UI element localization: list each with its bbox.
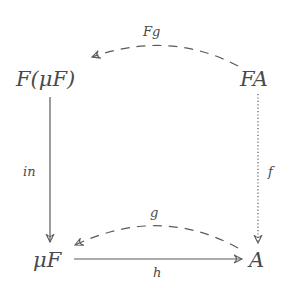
label-fg: Fg: [142, 24, 160, 39]
arrow-fg: [92, 45, 238, 66]
node-mu-f: μF: [33, 248, 63, 272]
node-fa: FA: [239, 67, 268, 91]
label-h: h: [153, 265, 161, 280]
arrow-g: [75, 226, 238, 248]
label-g: g: [150, 205, 158, 220]
node-a: A: [247, 248, 264, 272]
commutative-diagram: F(μF) FA μF A Fg in f g h: [0, 0, 294, 288]
label-f: f: [267, 164, 275, 179]
node-f-mu-f: F(μF): [15, 67, 75, 91]
label-in: in: [23, 164, 36, 179]
